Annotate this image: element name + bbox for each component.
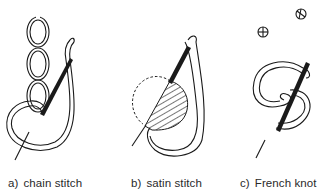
finished-knot-icon (258, 27, 268, 37)
finished-knot-icon (296, 9, 306, 19)
caption-letter: b) (131, 177, 141, 189)
caption-text: French knot (255, 177, 317, 189)
french-knot-illustration (253, 9, 310, 129)
caption-satin-stitch: b)satin stitch (131, 177, 202, 189)
stitch-diagram (0, 0, 321, 195)
caption-french-knot: c)French knot (240, 177, 317, 189)
caption-text: chain stitch (23, 177, 82, 189)
caption-letter: c) (240, 177, 250, 189)
thread-tail (256, 140, 265, 158)
chain-link-top (27, 17, 49, 47)
caption-text: satin stitch (146, 177, 202, 189)
needle-icon (168, 46, 191, 84)
chain-stitch-illustration (7, 16, 74, 150)
needle-icon (40, 58, 73, 116)
caption-chain-stitch: a)chain stitch (8, 177, 82, 189)
satin-stitch-illustration (132, 36, 204, 156)
caption-letter: a) (8, 177, 18, 189)
chain-link-middle (27, 48, 49, 80)
thread-tail (132, 125, 146, 146)
